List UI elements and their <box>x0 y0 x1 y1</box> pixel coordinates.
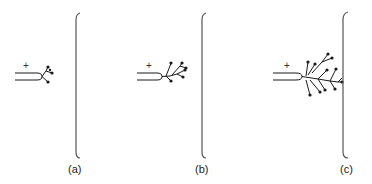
plane-electrode-b <box>202 13 206 158</box>
plane-electrode-a <box>76 13 80 158</box>
plane-electrode-c <box>343 12 348 158</box>
panel-a <box>15 13 80 158</box>
tree-tips-a <box>46 65 53 83</box>
polarity-label-a: + <box>23 60 29 71</box>
panel-b <box>137 13 206 158</box>
panel-label-c: (c) <box>340 163 353 175</box>
diagram-canvas <box>0 0 372 184</box>
tree-tips-b <box>169 61 187 82</box>
panel-c <box>273 12 348 158</box>
tree-tips-c <box>306 52 343 96</box>
panel-label-b: (b) <box>195 163 208 175</box>
needle-electrode-c <box>273 73 302 80</box>
panel-label-a: (a) <box>68 163 81 175</box>
polarity-label-c: + <box>284 60 290 71</box>
polarity-label-b: + <box>146 60 152 71</box>
needle-electrode-a <box>15 73 42 80</box>
needle-electrode-b <box>137 73 162 80</box>
